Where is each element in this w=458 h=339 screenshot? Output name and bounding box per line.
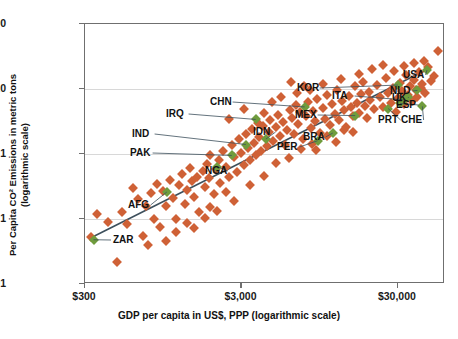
country-label-che: CHE <box>401 114 422 125</box>
y-tick-mark <box>79 88 84 89</box>
x-axis-title: GDP per capita in US$, PPP (logarithmic … <box>0 310 458 321</box>
country-label-mex: MEX <box>295 109 317 120</box>
y-axis-title-line2: (logarithmic scale) <box>19 123 30 207</box>
co2-gdp-scatter-chart: Per Capita CO² Emissions in metric tons … <box>0 0 458 339</box>
country-label-idn: IDN <box>253 126 270 137</box>
y-tick-label: 10 <box>0 82 6 94</box>
y-tick-mark <box>79 153 84 154</box>
country-label-per: PER <box>277 141 298 152</box>
country-label-kor: KOR <box>297 82 319 93</box>
y-axis-title-line1: Per Capita CO² Emissions in metric tons <box>7 74 18 256</box>
country-label-bra: BRA <box>303 131 325 142</box>
country-label-prt: PRT <box>378 114 398 125</box>
leader-line <box>153 153 232 155</box>
y-axis-title: Per Capita CO² Emissions in metric tons … <box>7 50 31 280</box>
x-tick-label: $30,000 <box>378 290 416 302</box>
leader-line <box>189 114 256 119</box>
x-tick-mark <box>84 283 85 288</box>
country-label-afg: AFG <box>128 199 149 210</box>
y-tick-label: 0.01 <box>0 277 6 289</box>
leader-line <box>422 106 423 120</box>
country-label-nld: NLD <box>390 85 411 96</box>
country-label-irq: IRQ <box>166 108 184 119</box>
y-tick-mark <box>79 218 84 219</box>
country-label-pak: PAK <box>130 147 150 158</box>
x-tick-mark <box>240 283 241 288</box>
country-label-chn: CHN <box>210 96 232 107</box>
leader-line <box>233 102 305 107</box>
country-label-ita: ITA <box>332 90 347 101</box>
x-tick-label: $3,000 <box>224 290 256 302</box>
leader-line <box>426 70 427 75</box>
y-tick-mark <box>79 23 84 24</box>
leader-line <box>155 134 246 145</box>
country-label-zar: ZAR <box>113 234 134 245</box>
y-tick-label: 0.1 <box>0 212 6 224</box>
leader-line <box>320 85 398 88</box>
leader-line <box>318 115 356 116</box>
country-label-ind: IND <box>132 128 149 139</box>
x-tick-mark <box>397 283 398 288</box>
leader-line <box>151 192 167 205</box>
leader-line <box>413 90 418 91</box>
country-label-usa: USA <box>403 69 424 80</box>
leader-line <box>300 141 318 147</box>
y-tick-label: 100 <box>0 17 6 29</box>
y-tick-label: 1 <box>0 147 6 159</box>
leader-line <box>326 133 333 137</box>
x-tick-label: $300 <box>72 290 95 302</box>
country-label-nga: NGA <box>205 165 227 176</box>
